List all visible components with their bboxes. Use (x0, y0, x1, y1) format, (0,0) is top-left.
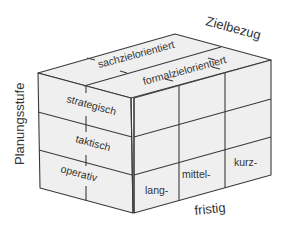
time-label-kurz: kurz- (234, 156, 258, 168)
axis-label-zielbezug: Zielbezug (204, 13, 262, 42)
axis-label-fristig: fristig (194, 200, 226, 218)
time-label-mittel: mittel- (182, 168, 211, 180)
axis-label-planungsstufe: Planungsstufe (12, 83, 27, 165)
time-label-lang: lang- (145, 184, 169, 196)
planning-cube-diagram: sachzielorientiert formalzielorientiert … (0, 0, 284, 229)
